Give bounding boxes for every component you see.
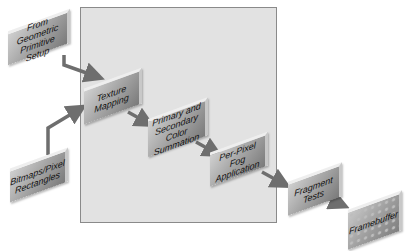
arrow-fog-to-fragment: [262, 172, 282, 183]
arrow-colorsum-to-fog: [196, 142, 214, 152]
node-label: Framebuffer: [346, 207, 401, 237]
arrow-geometric-to-texture: [64, 55, 95, 76]
arrow-texture-to-colorsum: [128, 112, 146, 122]
